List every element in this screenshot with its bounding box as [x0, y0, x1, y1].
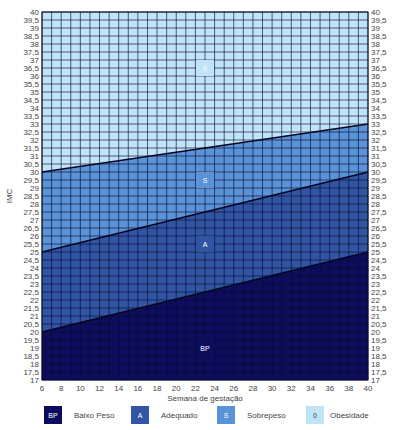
- legend: BP Baixo Peso A Adequado S Sobrepeso 0 O…: [0, 404, 399, 426]
- svg-text:20: 20: [172, 384, 181, 393]
- svg-text:22,5: 22,5: [371, 288, 387, 297]
- svg-text:33,5: 33,5: [23, 112, 39, 121]
- svg-text:30,5: 30,5: [371, 160, 387, 169]
- svg-text:30: 30: [371, 168, 380, 177]
- legend-label: Obesidade: [330, 411, 369, 420]
- svg-text:32: 32: [30, 136, 39, 145]
- svg-text:30: 30: [30, 168, 39, 177]
- svg-text:23,5: 23,5: [23, 272, 39, 281]
- imc-chart: 0SABP 1717,51818,51919,52020,52121,52222…: [0, 0, 399, 404]
- svg-text:36: 36: [30, 72, 39, 81]
- x-axis-ticks: 6810121416182022242628303234363840: [40, 384, 373, 393]
- svg-text:27,5: 27,5: [371, 208, 387, 217]
- svg-text:10: 10: [76, 384, 85, 393]
- svg-text:32: 32: [287, 384, 296, 393]
- svg-text:36,5: 36,5: [371, 64, 387, 73]
- svg-text:28: 28: [371, 200, 380, 209]
- svg-text:24,5: 24,5: [371, 256, 387, 265]
- svg-text:27,5: 27,5: [23, 208, 39, 217]
- svg-text:A: A: [203, 241, 208, 248]
- legend-swatch-a: A: [131, 406, 149, 424]
- svg-text:34: 34: [371, 104, 380, 113]
- svg-text:40: 40: [371, 8, 380, 17]
- svg-text:6: 6: [40, 384, 45, 393]
- svg-text:32,5: 32,5: [371, 128, 387, 137]
- svg-text:33: 33: [371, 120, 380, 129]
- legend-label: Baixo Peso: [74, 411, 114, 420]
- svg-text:37: 37: [30, 56, 39, 65]
- legend-swatch-o: 0: [306, 406, 324, 424]
- svg-text:31,5: 31,5: [23, 144, 39, 153]
- svg-text:22: 22: [371, 296, 380, 305]
- svg-text:40: 40: [364, 384, 373, 393]
- legend-item-adequado: A Adequado: [131, 404, 197, 426]
- svg-text:12: 12: [95, 384, 104, 393]
- legend-item-sobrepeso: S Sobrepeso: [217, 404, 286, 426]
- svg-text:34: 34: [30, 104, 39, 113]
- svg-text:28,5: 28,5: [371, 192, 387, 201]
- svg-text:20: 20: [371, 328, 380, 337]
- svg-text:19: 19: [371, 344, 380, 353]
- svg-text:23: 23: [371, 280, 380, 289]
- svg-text:17,5: 17,5: [23, 368, 39, 377]
- svg-text:39,5: 39,5: [23, 16, 39, 25]
- svg-text:20,5: 20,5: [371, 320, 387, 329]
- svg-text:19,5: 19,5: [371, 336, 387, 345]
- svg-text:36: 36: [371, 72, 380, 81]
- svg-text:28,5: 28,5: [23, 192, 39, 201]
- svg-text:31: 31: [371, 152, 380, 161]
- svg-text:31: 31: [30, 152, 39, 161]
- svg-text:26,5: 26,5: [23, 224, 39, 233]
- svg-text:20: 20: [30, 328, 39, 337]
- svg-text:37,5: 37,5: [371, 48, 387, 57]
- svg-text:37: 37: [371, 56, 380, 65]
- y-axis-title: IMC: [5, 188, 14, 203]
- svg-text:26,5: 26,5: [371, 224, 387, 233]
- legend-item-obesidade: 0 Obesidade: [306, 404, 369, 426]
- svg-text:38: 38: [371, 40, 380, 49]
- y-axis-left-ticks: 1717,51818,51919,52020,52121,52222,52323…: [23, 8, 39, 385]
- svg-text:18,5: 18,5: [23, 352, 39, 361]
- svg-text:30,5: 30,5: [23, 160, 39, 169]
- svg-text:38: 38: [30, 40, 39, 49]
- svg-text:18,5: 18,5: [371, 352, 387, 361]
- svg-text:39: 39: [371, 24, 380, 33]
- svg-text:21,5: 21,5: [23, 304, 39, 313]
- svg-text:39,5: 39,5: [371, 16, 387, 25]
- svg-text:17,5: 17,5: [371, 368, 387, 377]
- svg-text:25,5: 25,5: [371, 240, 387, 249]
- svg-text:25,5: 25,5: [23, 240, 39, 249]
- svg-text:36: 36: [325, 384, 334, 393]
- legend-swatch-bp: BP: [44, 406, 62, 424]
- svg-text:29: 29: [30, 184, 39, 193]
- svg-text:27: 27: [371, 216, 380, 225]
- svg-text:29,5: 29,5: [371, 176, 387, 185]
- svg-text:35,5: 35,5: [371, 80, 387, 89]
- svg-text:38,5: 38,5: [23, 32, 39, 41]
- svg-text:18: 18: [371, 360, 380, 369]
- svg-text:25: 25: [371, 248, 380, 257]
- svg-text:14: 14: [114, 384, 123, 393]
- svg-text:21: 21: [30, 312, 39, 321]
- svg-text:23,5: 23,5: [371, 272, 387, 281]
- svg-text:24,5: 24,5: [23, 256, 39, 265]
- svg-text:35: 35: [30, 88, 39, 97]
- svg-text:29,5: 29,5: [23, 176, 39, 185]
- svg-text:30: 30: [268, 384, 277, 393]
- svg-text:17: 17: [30, 376, 39, 385]
- svg-text:26: 26: [371, 232, 380, 241]
- svg-text:35: 35: [371, 88, 380, 97]
- svg-text:34,5: 34,5: [371, 96, 387, 105]
- svg-text:22: 22: [30, 296, 39, 305]
- svg-text:16: 16: [133, 384, 142, 393]
- svg-text:40: 40: [30, 8, 39, 17]
- svg-text:32: 32: [371, 136, 380, 145]
- svg-text:24: 24: [371, 264, 380, 273]
- svg-text:8: 8: [59, 384, 64, 393]
- svg-text:32,5: 32,5: [23, 128, 39, 137]
- x-axis-title: Semana de gestação: [167, 394, 243, 403]
- svg-text:19,5: 19,5: [23, 336, 39, 345]
- svg-text:S: S: [203, 177, 208, 184]
- svg-text:34,5: 34,5: [23, 96, 39, 105]
- svg-text:33: 33: [30, 120, 39, 129]
